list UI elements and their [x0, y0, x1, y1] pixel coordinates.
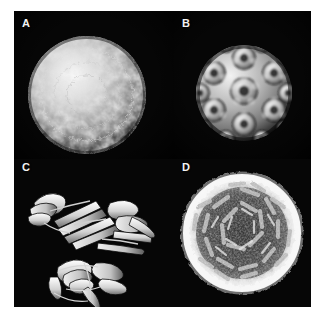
figure-root: A: [0, 0, 328, 321]
panel-b: B: [174, 11, 311, 159]
panel-label-a: A: [22, 17, 30, 29]
panel-label-d: D: [182, 161, 190, 173]
panel-label-c: C: [22, 161, 30, 173]
panel-d-graphic: [174, 159, 311, 307]
panel-label-b: B: [182, 17, 190, 29]
panel-c: C: [14, 159, 174, 307]
panel-c-graphic: [14, 159, 174, 307]
figure-plate: A: [14, 11, 311, 307]
panel-a: A: [14, 11, 174, 159]
panel-a-graphic: [14, 11, 174, 159]
panel-d: D: [174, 159, 311, 307]
panel-b-graphic: [174, 11, 311, 159]
